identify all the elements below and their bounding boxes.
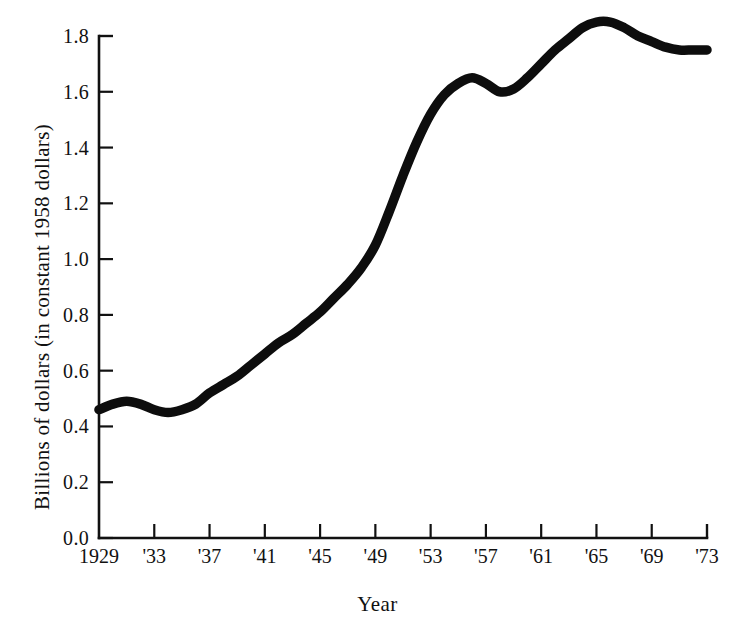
x-tick-marks: [154, 524, 707, 538]
chart-figure: 0.00.20.40.60.81.01.21.41.61.8 1929'33'3…: [0, 0, 755, 640]
x-axis-title: Year: [0, 592, 755, 617]
axes-group: [99, 36, 707, 538]
x-tick-label: '73: [667, 546, 747, 566]
y-tick-label: 0.0: [0, 528, 89, 548]
y-tick-label: 1.6: [0, 82, 89, 102]
y-axis-title: Billions of dollars (in constant 1958 do…: [30, 124, 55, 510]
data-series-line: [99, 21, 707, 412]
y-tick-marks: [99, 36, 113, 538]
y-tick-label: 1.8: [0, 26, 89, 46]
chart-plot-area: [0, 0, 755, 640]
